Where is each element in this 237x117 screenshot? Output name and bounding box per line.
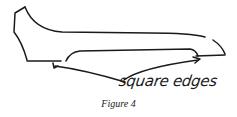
figure: square edges Figure 4 [0, 0, 237, 117]
bottom-right-edge [196, 55, 225, 56]
left-arrow [55, 66, 125, 82]
upper-contour [25, 7, 205, 37]
left-end-outline [14, 7, 27, 60]
annotation-label: square edges [118, 72, 218, 90]
upper-contour-right [213, 40, 225, 54]
figure-caption: Figure 4 [0, 98, 237, 109]
inner-contour [66, 49, 198, 61]
